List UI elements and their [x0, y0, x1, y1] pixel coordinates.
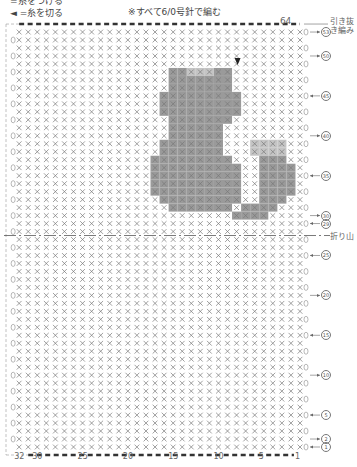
- row-marker-35: 35: [321, 171, 331, 181]
- col-label-20: 20: [123, 452, 133, 461]
- row-marker-40: 40: [321, 131, 331, 141]
- col-label-15: 15: [168, 452, 178, 461]
- stitch-count-top: 64: [280, 16, 291, 26]
- col-label-32: 32: [14, 452, 24, 461]
- row-marker-5: 5: [321, 410, 331, 420]
- row-marker-10: 10: [321, 370, 331, 380]
- slip-stitch-label: 引き抜き編み: [330, 17, 357, 35]
- col-label-5: 5: [259, 452, 264, 461]
- col-label-25: 25: [78, 452, 88, 461]
- col-label-10: 10: [213, 452, 223, 461]
- row-marker-45: 45: [321, 91, 331, 101]
- row-marker-29: 29: [321, 219, 331, 229]
- col-label-30: 30: [32, 452, 42, 461]
- row-marker-20: 20: [321, 290, 331, 300]
- col-label-1: 1: [295, 452, 300, 461]
- row-marker-25: 25: [321, 250, 331, 260]
- row-marker-1: 1: [321, 442, 331, 452]
- fold-label: 折り山: [330, 230, 354, 241]
- row-marker-50: 50: [321, 51, 331, 61]
- crochet-chart: [0, 0, 357, 467]
- row-marker-15: 15: [321, 330, 331, 340]
